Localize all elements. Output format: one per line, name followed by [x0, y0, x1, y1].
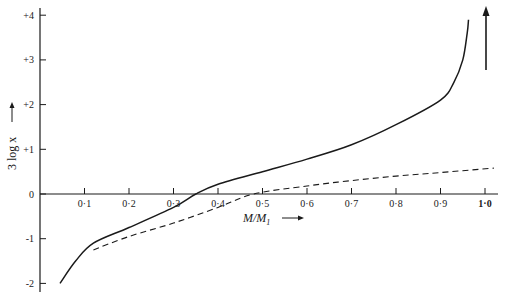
x-axis-title: M/M1 [242, 211, 304, 227]
y-tick-label: -1 [26, 233, 34, 244]
chart: -2-10+1+2+3+4 0·10·20·30·40·50·60·70·80·… [0, 0, 505, 297]
y-tick-label: -2 [26, 278, 34, 289]
x-tick-label: 0·8 [389, 198, 402, 209]
x-tick-label: 0·1 [78, 198, 91, 209]
dashed-curve [93, 168, 494, 250]
x-tick-label: 0·9 [434, 198, 447, 209]
y-ticks: -2-10+1+2+3+4 [23, 10, 46, 289]
x-tick-label: 0·5 [256, 198, 269, 209]
y-tick-label: +4 [23, 10, 34, 21]
y-tick-label: 0 [29, 189, 34, 200]
svg-text:3 log x: 3 log x [5, 137, 19, 170]
x-tick-label: 0·7 [345, 198, 358, 209]
solid-curve [60, 20, 469, 284]
axes [40, 8, 498, 292]
y-tick-label: +2 [23, 99, 34, 110]
y-tick-label: +1 [23, 144, 34, 155]
x-ticks: 0·10·20·30·40·50·60·70·80·91·0 [78, 188, 492, 209]
asymptote-arrow [483, 6, 490, 70]
x-tick-label: 0·6 [300, 198, 313, 209]
series [60, 20, 494, 284]
x-tick-label: 1·0 [478, 198, 491, 209]
y-tick-label: +3 [23, 54, 34, 65]
svg-text:M/M1: M/M1 [242, 211, 270, 227]
x-tick-label: 0·2 [122, 198, 135, 209]
y-axis-title: 3 log x [5, 102, 19, 170]
